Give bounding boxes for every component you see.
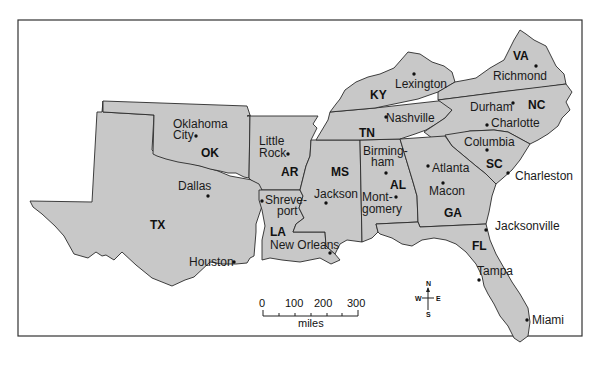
city-dot	[194, 134, 197, 137]
city-dot	[426, 164, 429, 167]
city-dot	[506, 171, 509, 174]
city-jacksonville: Jacksonville	[495, 219, 560, 233]
city-atlanta: Atlanta	[432, 161, 470, 175]
state-label: FL	[472, 239, 487, 253]
city-new-orleans: New Orleans	[270, 238, 339, 252]
state-label: TN	[359, 126, 375, 140]
city-dot	[484, 228, 487, 231]
city-dot	[232, 260, 235, 263]
state-label: OK	[201, 146, 219, 160]
state-label: TX	[150, 218, 165, 232]
city-dot	[412, 72, 415, 75]
map-canvas: TX OK AR LA MS AL TN KY GA FL SC NC VA O…	[0, 0, 598, 368]
city-little-rock: LittleRock	[259, 134, 287, 160]
city-dot	[286, 152, 289, 155]
svg-text:E: E	[436, 295, 441, 302]
city-nashville: Nashville	[386, 111, 435, 125]
city-tampa: Tampa	[477, 264, 513, 278]
city-charleston: Charleston	[515, 169, 573, 183]
city-dot	[485, 123, 488, 126]
scale-tick-label: 300	[347, 297, 365, 309]
city-durham: Durham	[470, 100, 513, 114]
state-label: AR	[281, 165, 299, 179]
state-label: GA	[444, 206, 462, 220]
city-macon: Macon	[429, 184, 465, 198]
city-miami: Miami	[532, 313, 564, 327]
state-label: LA	[270, 225, 286, 239]
scale-tick-label: 0	[259, 297, 265, 309]
city-columbia: Columbia	[464, 135, 515, 149]
city-lexington: Lexington	[395, 77, 447, 91]
scale-tick-label: 100	[285, 297, 303, 309]
city-dot	[477, 278, 480, 281]
city-jackson: Jackson	[314, 187, 358, 201]
city-dot	[384, 171, 387, 174]
city-dot	[324, 201, 327, 204]
city-dot	[534, 64, 537, 67]
scale-tick-label: 200	[314, 297, 332, 309]
city-dot	[394, 195, 397, 198]
city-charlotte: Charlotte	[491, 116, 540, 130]
city-dot	[384, 115, 387, 118]
city-dot	[485, 148, 488, 151]
svg-text:N: N	[426, 280, 431, 287]
city-dot	[328, 251, 331, 254]
city-dot	[260, 199, 263, 202]
city-dallas: Dallas	[178, 179, 211, 193]
city-richmond: Richmond	[493, 69, 547, 83]
state-label: VA	[513, 49, 529, 63]
svg-text:S: S	[426, 311, 431, 318]
state-label: KY	[370, 88, 387, 102]
city-dot	[206, 194, 209, 197]
city-dot	[441, 181, 444, 184]
state-label: MS	[331, 165, 349, 179]
city-dot	[525, 318, 528, 321]
state-label: NC	[528, 98, 546, 112]
state-label: SC	[486, 157, 503, 171]
svg-text:W: W	[415, 295, 422, 302]
city-dot	[511, 101, 514, 104]
scale-unit: miles	[298, 317, 324, 329]
city-houston: Houston	[189, 255, 234, 269]
